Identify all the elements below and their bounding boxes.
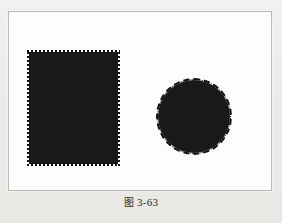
caption-label: 图 [124,197,134,208]
figure-page: 图 3-63 [0,0,282,223]
figure-frame [8,11,272,191]
filled-circle-shape [158,80,230,153]
figure-caption: 图 3-63 [0,196,282,209]
caption-number: 3-63 [137,196,158,208]
filled-rectangle-shape [29,52,118,164]
figure-canvas [9,12,271,190]
